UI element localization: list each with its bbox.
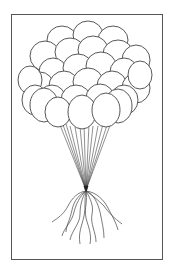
balloon-strings [58, 120, 112, 190]
balloon-bunch-drawing [0, 0, 171, 274]
balloons [18, 21, 152, 129]
ribbon-curls [52, 191, 122, 244]
